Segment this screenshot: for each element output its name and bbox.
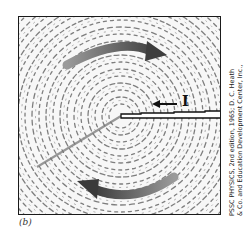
photo-credit: PSSC PHYSICS, 2nd edition, 1965; D. C. H… — [228, 16, 245, 216]
credit-line-2: & Co. and Education Development Center, … — [236, 16, 244, 216]
arrowhead-top — [145, 41, 167, 61]
iron-filings-pattern — [19, 17, 221, 215]
wire-shadow — [37, 116, 121, 167]
current-arrow-head — [152, 100, 160, 108]
iron-filings-photo — [18, 16, 221, 215]
credit-line-1: PSSC PHYSICS, 2nd edition, 1965; D. C. H… — [228, 16, 236, 216]
arrowhead-bottom — [77, 179, 99, 199]
panel-label: (b) — [19, 217, 32, 227]
figure: I (b) PSSC PHYSICS, 2nd edition, 1965; D… — [0, 0, 247, 245]
current-label: I — [182, 93, 189, 109]
